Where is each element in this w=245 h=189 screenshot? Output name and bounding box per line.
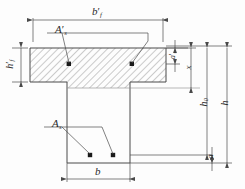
label-top-steel-area-sub: s [64, 29, 67, 36]
label-bottom-cover-text: a [205, 154, 215, 159]
label-flange-width: b′f [92, 6, 102, 18]
label-top-cover-prime: ′ [168, 54, 177, 56]
label-bottom-steel-area: As [52, 118, 62, 130]
label-compression-depth: x [184, 57, 193, 79]
label-flange-depth-sub: f [8, 60, 15, 62]
label-bottom-cover: a [206, 146, 215, 168]
label-total-depth: h [220, 92, 230, 114]
bottom-rebar-dots [88, 153, 115, 157]
t-beam-cross-section-figure: b′f h′f A′s As a′s x h0 h a b [0, 0, 245, 189]
label-bottom-steel-area-text: A [52, 117, 59, 129]
bottom-steel-leader-lines [44, 127, 113, 154]
label-flange-depth-text: h [4, 64, 15, 69]
label-top-cover-text: a [168, 55, 177, 59]
label-total-depth-text: h [219, 101, 230, 106]
dimension-flange-width [33, 18, 163, 42]
label-top-cover-sub: s [172, 52, 177, 54]
label-bottom-steel-area-sub: s [59, 123, 62, 130]
label-top-steel-area-text: A [55, 23, 62, 35]
label-compression-depth-text: x [183, 66, 193, 70]
label-flange-depth: h′f [5, 53, 16, 75]
label-web-width-text: b [95, 165, 101, 177]
label-top-steel-area: A′s [55, 24, 67, 36]
label-flange-depth-prime: ′ [4, 62, 15, 64]
label-web-width: b [95, 166, 101, 177]
label-top-cover: a′s [169, 44, 178, 66]
label-effective-depth: h0 [199, 91, 210, 113]
label-flange-width-sub: f [100, 11, 102, 18]
label-effective-depth-text: h [198, 101, 209, 106]
label-effective-depth-sub: 0 [202, 98, 209, 101]
